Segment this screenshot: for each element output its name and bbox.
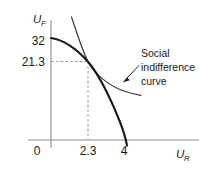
annotation-line-3: curve bbox=[141, 75, 167, 87]
y-axis-title-subscript: F bbox=[41, 19, 47, 28]
economics-utility-frontier-figure: 32 21.3 0 2.3 4 U F U R Social indiffere… bbox=[0, 0, 199, 171]
annotation-line-1: Social bbox=[141, 47, 170, 59]
x-axis-title: U R bbox=[176, 148, 190, 163]
x-tick-label-4: 4 bbox=[121, 144, 128, 158]
annotation-leader-line bbox=[126, 66, 140, 80]
x-tick-label-0: 0 bbox=[34, 144, 41, 158]
y-tick-label-32: 32 bbox=[32, 34, 46, 48]
x-tick-label-2-3: 2.3 bbox=[80, 144, 97, 158]
annotation-leader-group bbox=[123, 66, 140, 83]
x-axis-title-subscript: R bbox=[184, 154, 190, 163]
annotation-line-2: indifference bbox=[141, 61, 195, 73]
y-tick-label-21-3: 21.3 bbox=[22, 55, 46, 69]
chart-canvas: 32 21.3 0 2.3 4 U F U R Social indiffere… bbox=[0, 0, 199, 171]
tangency-guides-group bbox=[51, 62, 88, 141]
utility-possibility-frontier-path bbox=[51, 38, 127, 146]
y-axis-title: U F bbox=[33, 13, 47, 28]
